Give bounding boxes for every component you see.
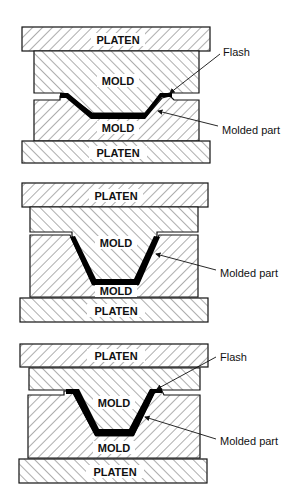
diagram-2: PLATEN MOLD MOLD PLATEN Molded part (20, 183, 278, 322)
platen-label: PLATEN (96, 34, 139, 46)
platen-label: PLATEN (93, 466, 136, 478)
top-platen: PLATEN (22, 27, 210, 51)
mold-label: MOLD (100, 237, 132, 249)
platen-label: PLATEN (94, 190, 137, 202)
top-platen: PLATEN (22, 183, 208, 207)
flash-callout: Flash (220, 351, 247, 363)
mold-label: MOLD (100, 285, 132, 297)
mold-label: MOLD (98, 442, 130, 454)
molded-part-callout: Molded part (222, 124, 280, 136)
molded-part-callout: Molded part (220, 435, 278, 447)
top-platen: PLATEN (20, 344, 208, 367)
platen-label: PLATEN (96, 147, 139, 159)
platen-label: PLATEN (94, 305, 137, 317)
mold-label: MOLD (102, 75, 134, 87)
bottom-platen: PLATEN (20, 298, 208, 322)
bottom-platen: PLATEN (19, 459, 207, 483)
compression-molding-figure: PLATEN MOLD MOLD PLATEN Flash Molded (0, 0, 300, 496)
mold-label: MOLD (98, 397, 130, 409)
bottom-platen: PLATEN (22, 141, 210, 163)
molded-part-callout: Molded part (220, 267, 278, 279)
platen-label: PLATEN (94, 350, 137, 362)
diagram-1: PLATEN MOLD MOLD PLATEN Flash Molded (22, 27, 280, 163)
mold-label: MOLD (102, 122, 134, 134)
flash-callout: Flash (223, 46, 250, 58)
diagram-3: PLATEN MOLD MOLD PLATEN Flash Molded par… (19, 344, 278, 483)
